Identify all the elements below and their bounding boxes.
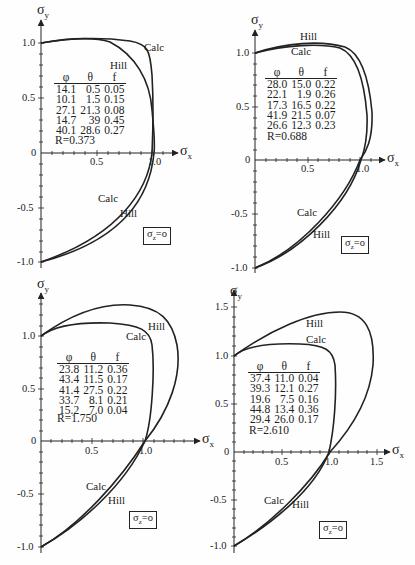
panel-3-condition: σz=o bbox=[129, 511, 157, 529]
panel-3-xtick: 0.5 bbox=[85, 445, 98, 456]
panel-2-ytick: 0 bbox=[245, 154, 250, 165]
panel-3-calc-label-lower: Calc bbox=[86, 480, 106, 492]
panel-3-x-axis-label: σx bbox=[202, 431, 214, 449]
panel-3-ytick: 1.0 bbox=[22, 330, 35, 341]
panel-2-hill-label-lower: Hill bbox=[313, 228, 330, 240]
panel-2-param-table: φθf 28.015.00.22 22.11.90.26 17.316.50.2… bbox=[265, 67, 337, 130]
panel-4-xtick: 1.0 bbox=[325, 456, 338, 467]
panel-2-x-axis-label: σx bbox=[387, 150, 399, 168]
panel-4-calc-label-lower: Calc bbox=[264, 494, 284, 506]
panel-1-x-axis-label: σx bbox=[180, 143, 192, 161]
panel-2-calc-label-lower: Calc bbox=[297, 206, 317, 218]
panel-3-hill-label: Hill bbox=[148, 320, 165, 332]
panel-2-calc-label: Calc bbox=[291, 45, 311, 57]
panel-2-ytick: -1.0 bbox=[231, 262, 248, 273]
panel-1-param-table: φθf 14.10.50.05 10.11.50.15 27.121.30.08… bbox=[54, 72, 126, 135]
panel-4-y-axis-label: σy bbox=[230, 283, 242, 301]
panel-3-ytick: -0.5 bbox=[17, 488, 34, 499]
panel-1-calc-label: Calc bbox=[144, 41, 164, 53]
panel-1-hill-label-lower: Hill bbox=[120, 207, 137, 219]
panel-3-param-table: φθf 23.811.20.36 43.411.50.17 41.427.50.… bbox=[57, 352, 129, 415]
panel-4-xtick: 0.5 bbox=[275, 456, 288, 467]
panel-1-ytick: 0.5 bbox=[22, 92, 35, 103]
panel-1-y-axis-label: σy bbox=[37, 2, 49, 20]
panel-4-ytick: -0.5 bbox=[210, 494, 227, 505]
panel-4-hill-label-lower: Hill bbox=[292, 498, 309, 510]
panel-3-ytick: -1.0 bbox=[17, 541, 34, 552]
panel-4-ytick: 1.5 bbox=[215, 301, 228, 312]
panel-3-hill-curve bbox=[41, 305, 178, 547]
panel-4-ytick: 1.0 bbox=[215, 350, 228, 361]
panel-3-xtick: 1.0 bbox=[139, 445, 152, 456]
panel-4-ytick: 0 bbox=[224, 446, 229, 457]
panel-2-ytick: -0.5 bbox=[231, 208, 248, 219]
panel-4-r-value: R=2.610 bbox=[249, 424, 289, 436]
panel-3-ytick: 0.5 bbox=[22, 383, 35, 394]
panel-1-ytick: -1.0 bbox=[17, 256, 34, 267]
panel-4-calc-label: Calc bbox=[306, 333, 326, 345]
panel-4-ytick: -1.0 bbox=[210, 540, 227, 551]
panel-4-param-table: φθf 37.411.00.04 39.312.10.27 19.67.50.1… bbox=[248, 361, 320, 424]
panel-2-hill-label: Hill bbox=[300, 30, 317, 42]
panel-2-ytick: 0.5 bbox=[236, 101, 249, 112]
panel-3-r-value: R=1.750 bbox=[57, 412, 97, 424]
panel-1-r-value: R=0.373 bbox=[55, 134, 95, 146]
panel-1-ytick: 0 bbox=[31, 147, 36, 158]
panel-3-ytick: 0 bbox=[31, 435, 36, 446]
panel-2-xtick: 0.5 bbox=[301, 163, 314, 174]
panel-3-hill-label-lower: Hill bbox=[108, 494, 125, 506]
panel-4-xtick: 1.5 bbox=[370, 456, 383, 467]
panel-2-xtick: 1.0 bbox=[356, 163, 369, 174]
panel-2-ytick: 1.0 bbox=[236, 47, 249, 58]
panel-2-y-axis-label: σy bbox=[251, 12, 263, 30]
panel-1-condition: σz=o bbox=[143, 227, 171, 245]
panel-1-xtick: 1.0 bbox=[148, 156, 161, 167]
panel-4-hill-label: Hill bbox=[306, 317, 323, 329]
panel-2-r-value: R=0.688 bbox=[267, 130, 307, 142]
panel-4-x-axis-label: σx bbox=[392, 442, 404, 460]
panel-1-calc-label-lower: Calc bbox=[98, 192, 118, 204]
panel-2-condition: σz=o bbox=[341, 236, 369, 254]
panel-1-hill-label: Hill bbox=[110, 59, 127, 71]
panel-4-ytick: 0.5 bbox=[215, 398, 228, 409]
panel-1-ytick: 1.0 bbox=[22, 37, 35, 48]
panel-1-xtick: 0.5 bbox=[90, 156, 103, 167]
panel-1-ytick: -0.5 bbox=[17, 202, 34, 213]
panel-3-y-axis-label: σy bbox=[37, 276, 49, 294]
panel-4-condition: σz=o bbox=[319, 521, 347, 539]
panel-3-calc-label: Calc bbox=[126, 330, 146, 342]
